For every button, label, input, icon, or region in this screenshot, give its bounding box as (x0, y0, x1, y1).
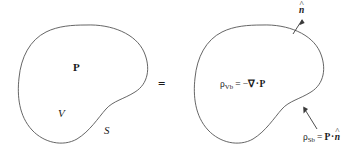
surface-n-hat-glyph: ^n (335, 133, 340, 143)
volume-equals: = (233, 79, 242, 89)
left-body-outline (18, 25, 147, 143)
volume-label: V (58, 108, 65, 119)
volume-polarization-vector: P (259, 79, 265, 89)
surface-equals: = (315, 132, 324, 142)
surface-charge-leader-arrow (303, 107, 317, 129)
n-hat-glyph: ^n (299, 6, 304, 16)
volume-bound-charge-formula: ρVb=−∇·P (220, 80, 265, 91)
equals-sign: = (158, 77, 165, 90)
surface-hat-accent: ^ (335, 127, 339, 136)
normal-vector-label: ^n (299, 6, 304, 16)
volume-subscript: Vb (225, 83, 233, 90)
surface-bound-charge-formula: ρSb=P·^n (303, 133, 340, 144)
bound-charge-diagram: P V S = ^n ρVb=−∇·P ρSb=P·^n (0, 0, 362, 158)
surface-label: S (104, 125, 110, 136)
polarization-label: P (73, 62, 80, 73)
hat-accent: ^ (300, 0, 304, 9)
surface-subscript: Sb (308, 136, 315, 143)
